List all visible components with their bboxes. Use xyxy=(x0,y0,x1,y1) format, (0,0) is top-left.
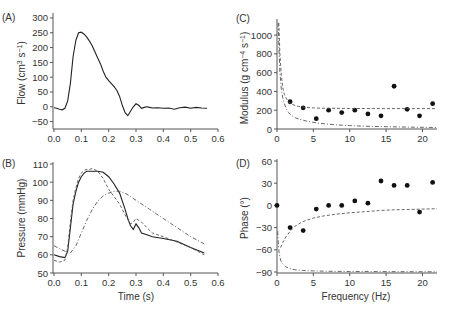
y-tick-label: 300 xyxy=(32,12,48,23)
data-point xyxy=(392,183,397,188)
data-point xyxy=(314,207,319,212)
y-tick-label: 100 xyxy=(32,72,48,83)
x-tick-label: 15 xyxy=(381,133,392,144)
x-tick-label: 0.5 xyxy=(184,277,197,288)
x-tick-label: 10 xyxy=(344,277,355,288)
panel-b-series xyxy=(54,169,204,263)
x-tick-label: 10 xyxy=(344,133,355,144)
panel-d-axes: 05101520−90−60−3003060 xyxy=(256,156,437,289)
x-tick-label: 15 xyxy=(381,277,392,288)
y-tick-label: 200 xyxy=(32,42,48,53)
data-point xyxy=(352,199,357,204)
y-tick-label: 0 xyxy=(267,124,272,135)
x-tick-label: 0.1 xyxy=(75,277,88,288)
y-tick-label: 150 xyxy=(32,57,48,68)
y-tick-label: 600 xyxy=(256,67,272,78)
panel-a-label: (A) xyxy=(2,12,15,23)
panel-b-label: (B) xyxy=(2,158,15,169)
panel-b-axes: 0.00.10.20.30.40.50.65060708090100110 xyxy=(32,159,224,289)
series-line-dashed xyxy=(279,23,437,109)
data-point xyxy=(339,203,344,208)
panel-b-xlabel: Time (s) xyxy=(118,291,154,302)
x-tick-label: 5 xyxy=(311,277,316,288)
panel-a-ylabel: Flow (cm3 s−1) xyxy=(16,41,28,105)
x-tick-label: 0.4 xyxy=(157,277,170,288)
x-tick-label: 0.2 xyxy=(102,133,115,144)
series-line-dashed xyxy=(281,209,437,248)
panel-d-phase: (D) Phase (°) Frequency (Hz) 05101520−90… xyxy=(236,156,437,303)
x-tick-label: 0.6 xyxy=(211,133,224,144)
panel-a-axes: 0.00.10.20.30.40.50.6−500501001502002503… xyxy=(32,12,225,144)
data-point xyxy=(430,180,435,185)
series-line-dashdot xyxy=(278,23,437,128)
x-tick-label: 5 xyxy=(311,133,316,144)
y-tick-label: 90 xyxy=(37,195,48,206)
panel-c-label: (C) xyxy=(236,13,250,24)
x-tick-label: 20 xyxy=(417,277,428,288)
y-tick-label: 250 xyxy=(32,27,48,38)
y-tick-label: 50 xyxy=(37,268,48,279)
x-tick-label: 0 xyxy=(274,277,279,288)
data-point xyxy=(405,183,410,188)
y-tick-label: 100 xyxy=(32,177,48,188)
data-point xyxy=(275,203,280,208)
x-tick-label: 0.0 xyxy=(47,133,60,144)
y-tick-label: 60 xyxy=(261,156,272,167)
panel-d-label: (D) xyxy=(236,158,250,169)
panel-b-pressure: (B) Pressure (mmHg) Time (s) 0.00.10.20.… xyxy=(2,158,225,302)
data-point xyxy=(366,112,371,117)
panel-d-series xyxy=(275,179,437,272)
x-tick-label: 0.3 xyxy=(129,277,142,288)
y-tick-label: 70 xyxy=(37,231,48,242)
y-tick-label: 60 xyxy=(37,249,48,260)
data-point xyxy=(405,107,410,112)
x-tick-label: 0.5 xyxy=(184,133,197,144)
y-tick-label: 0 xyxy=(43,101,48,112)
y-tick-label: 1000 xyxy=(251,30,272,41)
panel-c-modulus: (C) Modulus (g cm−4 s−1) 051015200200400… xyxy=(236,13,437,144)
x-tick-label: 20 xyxy=(417,133,428,144)
x-tick-label: 0 xyxy=(274,133,279,144)
y-tick-label: 0 xyxy=(267,200,272,211)
data-point xyxy=(326,203,331,208)
panel-b-ylabel: Pressure (mmHg) xyxy=(16,179,27,258)
panel-c-series xyxy=(278,23,437,128)
data-point xyxy=(392,84,397,89)
y-tick-label: −30 xyxy=(256,222,272,233)
y-tick-label: 400 xyxy=(256,86,272,97)
data-point xyxy=(301,228,306,233)
panel-c-axes: 0510152002004006008001000 xyxy=(251,19,437,144)
panel-d-ylabel: Phase (°) xyxy=(239,197,250,239)
panel-a-flow: (A) Flow (cm3 s−1) 0.00.10.20.30.40.50.6… xyxy=(2,12,225,144)
x-tick-label: 0.3 xyxy=(129,133,142,144)
panel-c-ylabel: Modulus (g cm−4 s−1) xyxy=(239,32,251,125)
series-line-dashdot xyxy=(278,231,437,271)
series-line-solid xyxy=(54,32,207,116)
data-point xyxy=(314,116,319,121)
x-tick-label: 0.4 xyxy=(157,133,170,144)
y-tick-label: −50 xyxy=(32,116,48,127)
x-tick-label: 0.0 xyxy=(47,277,60,288)
panel-a-series xyxy=(54,32,207,116)
x-tick-label: 0.6 xyxy=(211,277,224,288)
y-tick-label: 30 xyxy=(261,178,272,189)
y-tick-label: 80 xyxy=(37,213,48,224)
data-point xyxy=(339,110,344,115)
y-tick-label: 110 xyxy=(33,159,48,170)
data-point xyxy=(430,101,435,106)
y-tick-label: 200 xyxy=(256,105,272,116)
figure: (A) Flow (cm3 s−1) 0.00.10.20.30.40.50.6… xyxy=(0,0,449,313)
y-tick-label: 50 xyxy=(37,86,48,97)
y-tick-label: 800 xyxy=(256,48,272,59)
panel-d-xlabel: Frequency (Hz) xyxy=(322,291,391,302)
x-tick-label: 0.1 xyxy=(75,133,88,144)
data-point xyxy=(366,201,371,206)
series-line-dashed xyxy=(54,169,204,263)
y-tick-label: −60 xyxy=(256,244,272,255)
x-tick-label: 0.2 xyxy=(102,277,115,288)
data-point xyxy=(379,113,384,118)
data-point xyxy=(301,105,306,110)
data-point xyxy=(379,179,384,184)
data-point xyxy=(417,210,422,215)
data-point xyxy=(417,113,422,118)
